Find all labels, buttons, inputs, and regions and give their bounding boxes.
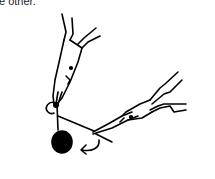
wire-tail-icon	[58, 116, 94, 131]
pliers-wire-wrap-illustration	[0, 0, 215, 179]
bead-icon	[52, 131, 72, 153]
wire-loop-icon	[46, 102, 58, 130]
pliers-holding-loop-icon	[53, 14, 100, 104]
wrap-direction-arrow-icon	[81, 140, 99, 154]
pliers-wrapping-wire-icon	[93, 72, 186, 134]
